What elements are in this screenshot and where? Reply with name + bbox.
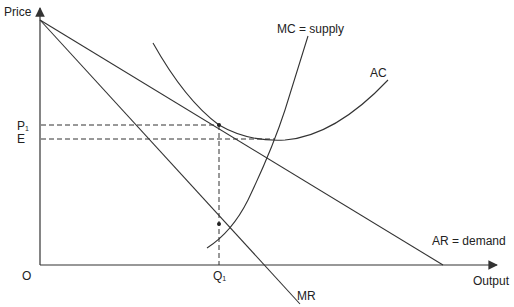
mr-label: MR [297, 289, 316, 303]
mc-mr-intersection-point [217, 222, 221, 226]
price-axis-label: Price [4, 5, 32, 19]
output-axis-label: Output [473, 274, 510, 288]
origin-label: O [22, 269, 31, 283]
ac-curve [153, 43, 388, 140]
profit-max-price-point [217, 123, 221, 127]
p1-label: P1 [17, 119, 29, 133]
mr-curve [40, 20, 300, 304]
ar-demand-curve [40, 20, 443, 265]
ac-label: AC [370, 66, 387, 80]
e-label: E [17, 132, 25, 146]
q1-label: Q1 [213, 269, 226, 283]
monopoly-diagram: Price Output O P1 E Q1 MC = supply AC AR… [0, 0, 514, 307]
mc-supply-label: MC = supply [277, 22, 344, 36]
ar-demand-label: AR = demand [432, 234, 506, 248]
mc-curve [207, 36, 308, 248]
